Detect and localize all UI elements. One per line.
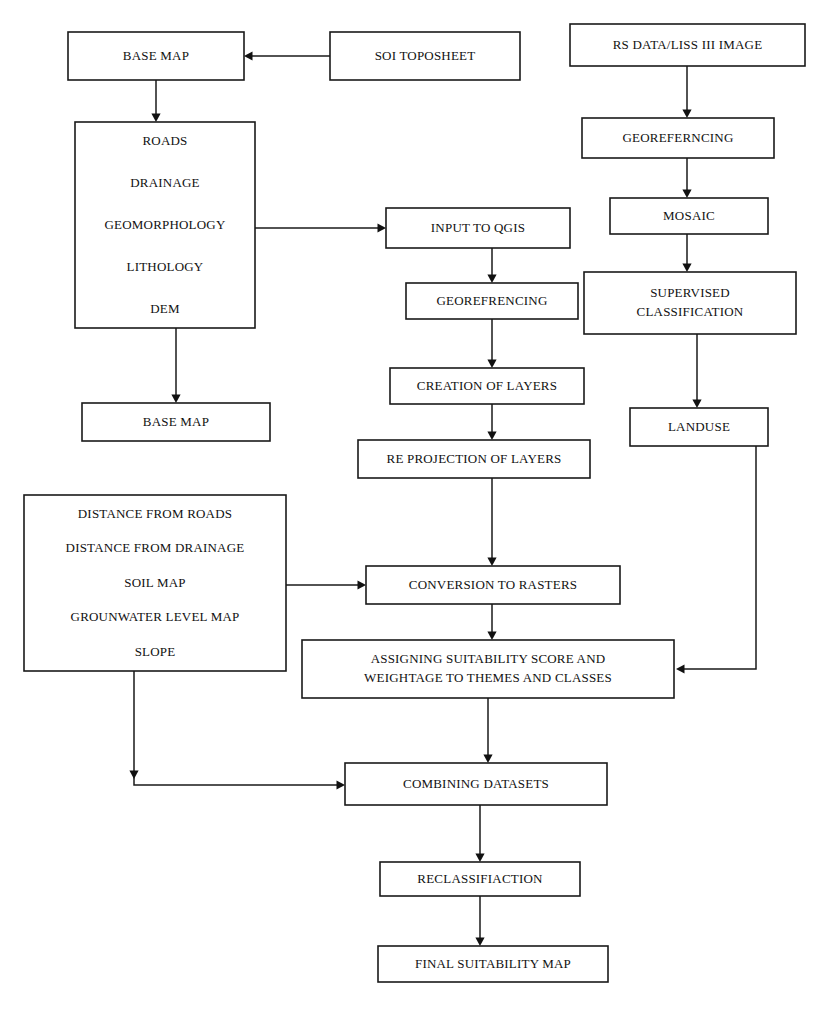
- node-label-base_map_top: BASE MAP: [123, 48, 189, 63]
- edge-themes_box-to-base_map_bottom: [171, 328, 180, 403]
- node-combining_datasets[interactable]: COMBINING DATASETS: [345, 763, 607, 805]
- node-label-final_suitability_map: FINAL SUITABILITY MAP: [415, 956, 571, 971]
- edge-mosaic-to-supervised_classification: [682, 234, 691, 272]
- node-label-criteria_box: SOIL MAP: [124, 575, 185, 590]
- node-label-georef_mid: GEOREFRENCING: [437, 293, 548, 308]
- edge-assigning_scores-to-combining_datasets: [483, 698, 492, 763]
- edge-reclassification-to-final_suitability_map: [475, 896, 484, 946]
- node-label-base_map_bottom: BASE MAP: [143, 414, 209, 429]
- edge-landuse-to-assigning_scores: [676, 446, 756, 674]
- node-base_map_bottom[interactable]: BASE MAP: [82, 403, 270, 441]
- node-label-themes_box: DRAINAGE: [130, 175, 199, 190]
- edge-combining_datasets-to-reclassification: [475, 805, 484, 862]
- node-landuse[interactable]: LANDUSE: [630, 408, 768, 446]
- node-input_qgis[interactable]: INPUT TO QGIS: [386, 208, 570, 248]
- node-label-input_qgis: INPUT TO QGIS: [431, 220, 525, 235]
- edge-conversion_rasters-to-assigning_scores: [487, 604, 496, 640]
- node-reclassification[interactable]: RECLASSIFIACTION: [380, 862, 580, 896]
- node-label-supervised_classification: SUPERVISED: [650, 285, 730, 300]
- node-soi_toposheet[interactable]: SOI TOPOSHEET: [330, 32, 520, 80]
- flowchart-svg: BASE MAPSOI TOPOSHEETRS DATA/LISS III IM…: [0, 0, 825, 1013]
- node-creation_of_layers[interactable]: CREATION OF LAYERS: [390, 368, 584, 404]
- node-label-themes_box: DEM: [150, 301, 180, 316]
- node-label-soi_toposheet: SOI TOPOSHEET: [375, 48, 476, 63]
- node-conversion_rasters[interactable]: CONVERSION TO RASTERS: [366, 566, 620, 604]
- edge-creation_of_layers-to-re_projection: [487, 404, 496, 440]
- edge-rs_data-to-georef_right: [682, 66, 691, 118]
- flowchart-canvas: BASE MAPSOI TOPOSHEETRS DATA/LISS III IM…: [0, 0, 825, 1013]
- node-mosaic[interactable]: MOSAIC: [610, 198, 768, 234]
- node-rs_data[interactable]: RS DATA/LISS III IMAGE: [570, 24, 805, 66]
- node-label-georef_right: GEOREFERNCING: [623, 130, 734, 145]
- node-label-themes_box: LITHOLOGY: [127, 259, 204, 274]
- node-label-criteria_box: SLOPE: [135, 644, 176, 659]
- node-final_suitability_map[interactable]: FINAL SUITABILITY MAP: [378, 946, 608, 982]
- node-label-rs_data: RS DATA/LISS III IMAGE: [613, 37, 763, 52]
- edge-themes_box-to-input_qgis: [255, 223, 386, 232]
- edge-georef_right-to-mosaic: [682, 158, 691, 198]
- edge-georef_mid-to-creation_of_layers: [487, 319, 496, 368]
- node-label-criteria_box: GROUNWATER LEVEL MAP: [71, 609, 240, 624]
- node-label-supervised_classification: CLASSIFICATION: [637, 304, 744, 319]
- edge-input_qgis-to-georef_mid: [487, 248, 496, 283]
- node-georef_right[interactable]: GEOREFERNCING: [582, 118, 774, 158]
- edge-re_projection-to-conversion_rasters: [487, 478, 496, 566]
- node-label-assigning_scores: ASSIGNING SUITABILITY SCORE AND: [371, 651, 606, 666]
- node-label-landuse: LANDUSE: [668, 419, 730, 434]
- edge-criteria_box-to-conversion_rasters: [286, 580, 366, 589]
- node-themes_box[interactable]: ROADSDRAINAGEGEOMORPHOLOGYLITHOLOGYDEM: [75, 122, 255, 328]
- node-label-re_projection: RE PROJECTION OF LAYERS: [387, 451, 562, 466]
- node-georef_mid[interactable]: GEOREFRENCING: [406, 283, 578, 319]
- node-label-combining_datasets: COMBINING DATASETS: [403, 776, 549, 791]
- node-label-criteria_box: DISTANCE FROM DRAINAGE: [66, 540, 245, 555]
- node-supervised_classification[interactable]: SUPERVISEDCLASSIFICATION: [584, 272, 796, 334]
- node-label-themes_box: GEOMORPHOLOGY: [104, 217, 225, 232]
- node-re_projection[interactable]: RE PROJECTION OF LAYERS: [358, 440, 590, 478]
- node-base_map_top[interactable]: BASE MAP: [68, 32, 244, 80]
- edge-base_map_top-to-themes_box: [151, 80, 160, 122]
- node-assigning_scores[interactable]: ASSIGNING SUITABILITY SCORE ANDWEIGHTAGE…: [302, 640, 674, 698]
- node-label-reclassification: RECLASSIFIACTION: [417, 871, 543, 886]
- node-label-themes_box: ROADS: [142, 133, 187, 148]
- node-label-mosaic: MOSAIC: [663, 208, 715, 223]
- node-label-conversion_rasters: CONVERSION TO RASTERS: [409, 577, 577, 592]
- edge-soi_toposheet-to-base_map_top: [244, 51, 330, 60]
- node-label-criteria_box: DISTANCE FROM ROADS: [78, 506, 232, 521]
- node-criteria_box[interactable]: DISTANCE FROM ROADSDISTANCE FROM DRAINAG…: [24, 495, 286, 671]
- edge-supervised_classification-to-landuse: [692, 334, 701, 408]
- nodes-layer: BASE MAPSOI TOPOSHEETRS DATA/LISS III IM…: [24, 24, 805, 982]
- node-label-assigning_scores: WEIGHTAGE TO THEMES AND CLASSES: [364, 670, 612, 685]
- node-label-creation_of_layers: CREATION OF LAYERS: [417, 378, 557, 393]
